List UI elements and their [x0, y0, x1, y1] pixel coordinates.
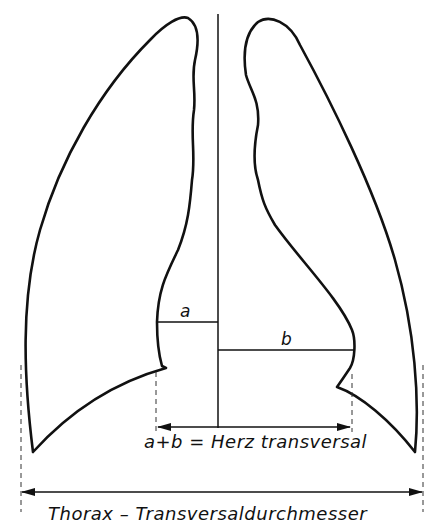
heart-transverse-label: a+b = Herz transversal [144, 431, 367, 452]
left-lung-outline [26, 17, 198, 452]
label-b: b [281, 329, 292, 349]
lung-diagram: a b a+b = Herz transversal Thorax – Tran… [0, 0, 440, 532]
right-lung-outline [245, 19, 417, 452]
thorax-transverse-label: Thorax – Transversaldurchmesser [48, 503, 368, 524]
label-a: a [180, 301, 190, 321]
